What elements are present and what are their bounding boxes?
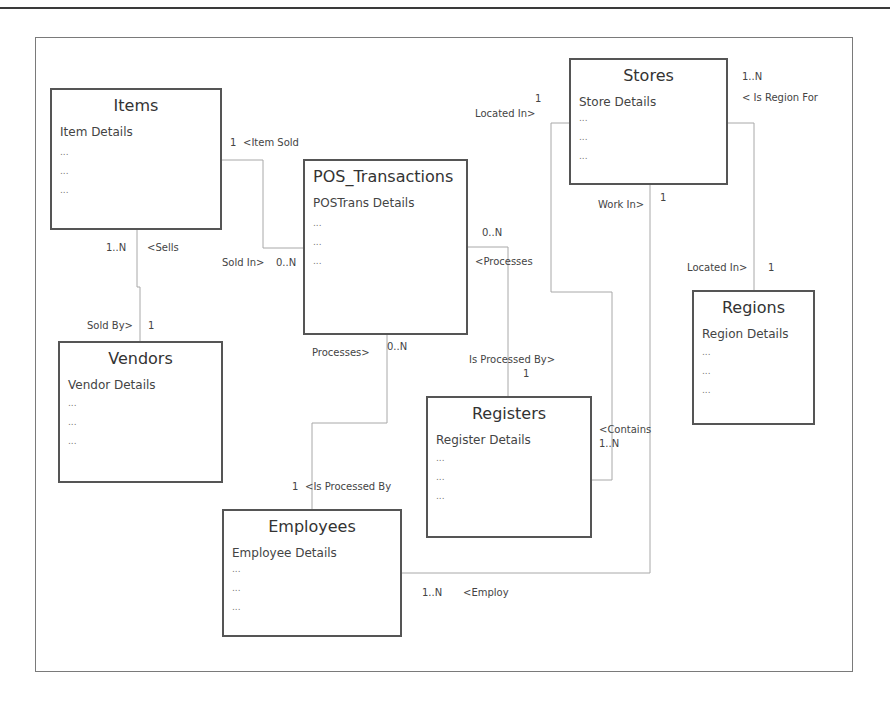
cardinality-label: 1	[660, 192, 666, 203]
entity-attribute: ...	[579, 128, 726, 147]
entity-attribute: ...	[232, 579, 400, 598]
entity-attribute: ...	[579, 109, 726, 128]
entity-title: Stores	[571, 66, 726, 85]
entity-title: POS_Transactions	[313, 167, 466, 186]
entity-title: Vendors	[60, 349, 221, 368]
entity-attribute: ...	[436, 487, 590, 506]
relationship-label: <Item Sold	[243, 137, 299, 148]
entity-items[interactable]: Items Item Details ... ... ...	[50, 88, 222, 230]
entity-attribute: ...	[60, 162, 220, 181]
relationship-label: <Is Processed By	[305, 481, 391, 492]
entity-attribute: ...	[436, 468, 590, 487]
cardinality-label: 1..N	[599, 438, 619, 449]
entity-attribute: ...	[68, 413, 221, 432]
cardinality-label: 1	[292, 481, 298, 492]
relationship-label: <Sells	[147, 242, 179, 253]
cardinality-label: 1..N	[422, 587, 442, 598]
connector-items-pos	[221, 160, 303, 248]
cardinality-label: 1..N	[106, 242, 126, 253]
entity-attribute: ...	[313, 233, 466, 252]
connector-pos-registers	[467, 247, 508, 397]
cardinality-label: 1	[523, 368, 529, 379]
entity-attribute: ...	[68, 394, 221, 413]
entity-details: Item Details	[60, 125, 220, 139]
relationship-label: <Contains	[599, 424, 651, 435]
entity-attribute: ...	[60, 181, 220, 200]
relationship-label: Work In>	[598, 199, 644, 210]
entity-registers[interactable]: Registers Register Details ... ... ...	[426, 396, 592, 538]
entity-vendors[interactable]: Vendors Vendor Details ... ... ...	[58, 341, 223, 483]
cardinality-label: 1	[148, 320, 154, 331]
relationship-label: Is Processed By>	[469, 354, 555, 365]
relationship-label: < Is Region For	[742, 92, 818, 103]
entity-stores[interactable]: Stores Store Details ... ... ...	[569, 58, 728, 185]
connector-items-vendors	[137, 229, 140, 341]
entity-pos-transactions[interactable]: POS_Transactions POSTrans Details ... ..…	[303, 159, 468, 335]
entity-employees[interactable]: Employees Employee Details ... ... ...	[222, 509, 402, 637]
relationship-label: Sold In>	[222, 257, 264, 268]
entity-attribute: ...	[702, 381, 813, 400]
relationship-label: <Employ	[463, 587, 509, 598]
entity-title: Employees	[224, 517, 400, 536]
entity-regions[interactable]: Regions Region Details ... ... ...	[692, 290, 815, 425]
relationship-label: Processes>	[312, 347, 370, 358]
cardinality-label: 1	[768, 262, 774, 273]
entity-attribute: ...	[232, 598, 400, 617]
relationship-label: Located In>	[687, 262, 747, 273]
entity-details: POSTrans Details	[313, 196, 466, 210]
cardinality-label: 1..N	[742, 71, 762, 82]
entity-details: Store Details	[579, 95, 726, 109]
relationship-label: Sold By>	[87, 320, 133, 331]
entity-title: Items	[52, 96, 220, 115]
relationship-label: Located In>	[475, 108, 535, 119]
entity-attribute: ...	[436, 449, 590, 468]
entity-details: Region Details	[702, 327, 813, 341]
entity-attribute: ...	[313, 252, 466, 271]
entity-attribute: ...	[232, 560, 400, 579]
cardinality-label: 0..N	[482, 227, 502, 238]
entity-attribute: ...	[702, 362, 813, 381]
entity-attribute: ...	[579, 147, 726, 166]
entity-details: Vendor Details	[68, 378, 221, 392]
cardinality-label: 1	[535, 93, 541, 104]
cardinality-label: 0..N	[276, 257, 296, 268]
relationship-label: <Processes	[475, 256, 533, 267]
entity-attribute: ...	[702, 343, 813, 362]
cardinality-label: 0..N	[387, 341, 407, 352]
entity-attribute: ...	[313, 214, 466, 233]
entity-attribute: ...	[60, 143, 220, 162]
entity-title: Regions	[694, 298, 813, 317]
cardinality-label: 1	[230, 137, 236, 148]
entity-details: Register Details	[436, 433, 590, 447]
entity-attribute: ...	[68, 432, 221, 451]
entity-details: Employee Details	[232, 546, 400, 560]
entity-title: Registers	[428, 404, 590, 423]
